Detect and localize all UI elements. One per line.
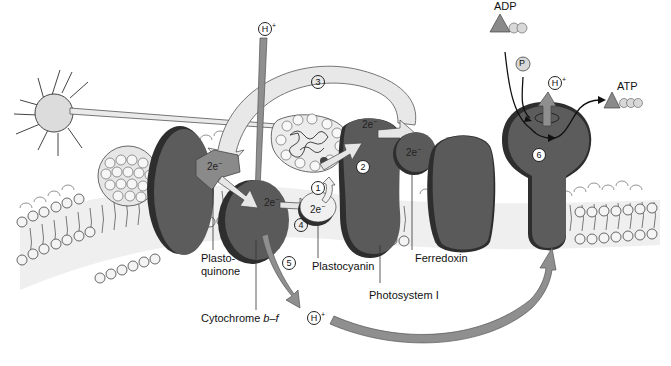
diagram-svg	[0, 0, 671, 366]
photosystem-i-label: Photosystem I	[369, 289, 439, 302]
arrowhead	[598, 96, 606, 104]
proton-bottom-label: H+	[307, 311, 325, 325]
atp-label: ATP	[617, 80, 638, 93]
adp-label: ADP	[494, 0, 517, 13]
step-4-marker: 4	[294, 218, 308, 232]
electron-label-fd: 2e−	[406, 146, 421, 158]
diagram-stage: 2e− 2e− 2e− 2e− 2e− 1 2 3 4 5 6 H+ H+ H+…	[0, 0, 671, 366]
step-3-marker: 3	[311, 75, 325, 89]
nadp-reductase-complex	[427, 135, 495, 252]
proton-atpase-label: H+	[548, 76, 566, 90]
ferredoxin-label: Ferredoxin	[415, 252, 468, 265]
step-6-marker: 6	[532, 148, 546, 162]
phosphate-label: P	[519, 57, 525, 70]
photosystem-ii	[147, 126, 214, 255]
plastocyanin-label: Plastocyanin	[312, 260, 374, 273]
atp-molecule-icon	[604, 92, 643, 108]
plastoquinone-label: Plasto- quinone	[201, 252, 240, 278]
electron-label-pc: 2e−	[310, 203, 325, 215]
step-2-marker: 2	[356, 160, 370, 174]
electron-label-pq: 2e−	[207, 160, 222, 172]
photosystem-i	[339, 118, 401, 258]
step-1-marker: 1	[311, 181, 325, 195]
adp-molecule-icon	[490, 14, 527, 33]
cytochrome-bf-label: Cytochrome b–f	[201, 312, 279, 325]
proton-top-label: H+	[258, 22, 276, 36]
electron-label-cyt: 2e−	[264, 196, 279, 208]
step-5-marker: 5	[282, 256, 296, 270]
chlorophyll-antenna-complex	[271, 114, 348, 172]
electron-label-ps1: 2e−	[362, 118, 377, 130]
